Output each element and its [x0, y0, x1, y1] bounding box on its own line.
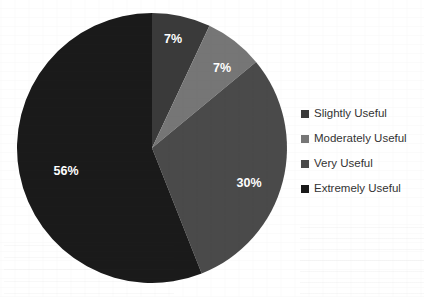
- pie-slice-value-label: 7%: [164, 32, 182, 46]
- legend-item-slightly-useful[interactable]: Slightly Useful: [301, 101, 424, 126]
- legend-swatch-icon: [301, 185, 309, 193]
- legend-item-label: Moderately Useful: [314, 133, 407, 145]
- legend-item-extremely-useful[interactable]: Extremely Useful: [301, 176, 424, 201]
- pie-slice-value-label: 56%: [53, 164, 78, 178]
- legend-item-very-useful[interactable]: Very Useful: [301, 151, 424, 176]
- legend-swatch-icon: [301, 110, 309, 118]
- legend-item-label: Very Useful: [314, 158, 373, 170]
- pie-slice-value-label: 30%: [236, 176, 261, 190]
- legend-swatch-icon: [301, 135, 309, 143]
- legend-item-label: Slightly Useful: [314, 108, 387, 120]
- legend-swatch-icon: [301, 160, 309, 168]
- legend-item-moderately-useful[interactable]: Moderately Useful: [301, 126, 424, 151]
- legend-item-label: Extremely Useful: [314, 183, 401, 195]
- pie-slice-group: [17, 13, 287, 283]
- pie-slice-value-label: 7%: [213, 61, 231, 75]
- pie-chart: 7%7%30%56% Slightly Useful Moderately Us…: [0, 0, 424, 297]
- chart-legend: Slightly Useful Moderately Useful Very U…: [301, 101, 424, 201]
